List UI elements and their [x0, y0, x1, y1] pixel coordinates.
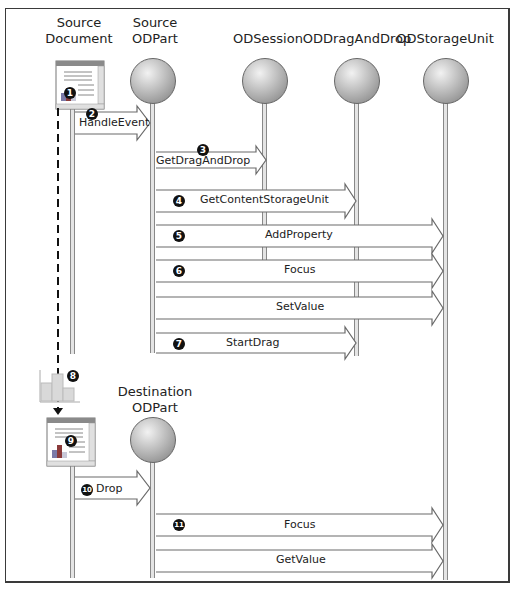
- step-badge-7: 7: [173, 338, 185, 350]
- source-document-icon: [56, 61, 104, 109]
- step-badge-6: 6: [173, 265, 185, 277]
- msg-focus-source: Focus: [284, 263, 315, 276]
- msg-focus-destination: Focus: [284, 518, 315, 531]
- msg-getvalue: GetValue: [276, 553, 326, 566]
- msg-getcontentstorageunit: GetContentStorageUnit: [200, 193, 329, 206]
- step-badge-1: 1: [64, 87, 76, 99]
- step-badge-3: 3: [197, 144, 209, 156]
- step-badge-2: 2: [86, 108, 98, 120]
- step-badge-8: 8: [67, 370, 79, 382]
- step-badge-4: 4: [173, 195, 185, 207]
- msg-addproperty: AddProperty: [265, 228, 333, 241]
- msg-startdrag: StartDrag: [226, 336, 280, 349]
- msg-setvalue: SetValue: [276, 300, 324, 313]
- step-badge-11: 11: [173, 519, 185, 531]
- sequence-diagram: Source Document Source ODPart ODSession …: [0, 0, 519, 594]
- step-badge-5: 5: [173, 230, 185, 242]
- arrows-layer: [0, 0, 519, 594]
- drag-arrowhead-icon: [53, 408, 63, 415]
- msg-drop: Drop: [96, 482, 122, 495]
- step-badge-9: 9: [65, 435, 77, 447]
- step-badge-10: 10: [81, 484, 93, 496]
